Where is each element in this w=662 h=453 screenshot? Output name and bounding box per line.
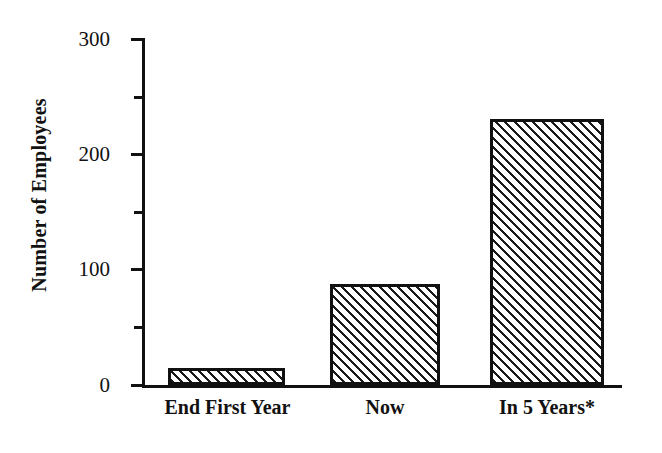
bar-chart: Number of Employees 300 200 100 0 End Fi…: [0, 0, 662, 453]
bar-in-5-years: [490, 119, 604, 385]
y-tick-label-100: 100: [24, 259, 110, 280]
y-tick-0: [131, 384, 143, 387]
y-tick-label-100-wrap: 100: [24, 258, 110, 280]
y-tick-label-0: 0: [24, 375, 110, 396]
x-axis-line: [142, 385, 622, 388]
bar-end-first-year: [168, 368, 285, 385]
x-axis-label-end-first-year: End First Year: [140, 396, 315, 418]
y-tick-50: [134, 326, 143, 329]
y-tick-150: [134, 211, 143, 214]
y-tick-label-200-wrap: 200: [24, 143, 110, 165]
y-tick-label-300: 300: [24, 29, 110, 50]
bar-now: [330, 284, 440, 385]
y-tick-200: [131, 153, 143, 156]
y-tick-label-200: 200: [24, 144, 110, 165]
x-axis-label-in-5-years: In 5 Years*: [472, 396, 622, 418]
y-tick-300: [131, 38, 143, 41]
y-axis-title: Number of Employees: [22, 45, 56, 345]
y-tick-label-300-wrap: 300: [24, 28, 110, 50]
y-tick-100: [131, 268, 143, 271]
y-tick-250: [134, 96, 143, 99]
x-axis-label-now: Now: [325, 396, 445, 418]
y-tick-label-0-wrap: 0: [24, 374, 110, 396]
